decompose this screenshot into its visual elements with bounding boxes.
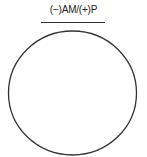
diagram-circle: [0, 0, 147, 157]
